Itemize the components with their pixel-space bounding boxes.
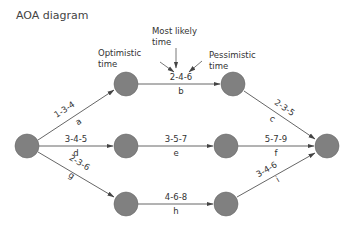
activity-g-name: g [67,170,77,181]
node-6 [214,192,238,216]
annotation-most-likely-line1: Most likely [152,26,197,36]
edge-a [38,90,114,140]
activity-d-times: 3-4-5 [65,134,87,144]
activity-e-times: 3-5-7 [165,134,187,144]
pointer-pessimistic [189,61,202,72]
node-3 [114,134,138,158]
node-start [15,134,39,158]
activity-f-name: f [275,148,279,158]
annotation-optimistic-line1: Optimistic [98,48,142,58]
activity-c-name: c [268,113,278,124]
node-1 [114,72,138,96]
activity-i-name: i [274,174,281,184]
activity-h-name: h [173,206,178,216]
annotation-pessimistic-line2: time [209,61,228,71]
node-4 [214,134,238,158]
annotation-most-likely-line2: time [152,37,171,47]
activity-b-name: b [178,86,183,96]
activity-h-times: 4-6-8 [165,192,187,202]
pointer-optimistic [160,62,174,72]
activity-b-times: 2-4-6 [170,72,192,82]
annotation-optimistic-line2: time [98,59,117,69]
aoa-network: Optimistic time Most likely time Pessimi… [0,0,350,231]
node-2 [221,72,245,96]
node-end [315,134,339,158]
node-5 [114,192,138,216]
activity-a-name: a [73,116,83,127]
activity-e-name: e [173,148,178,158]
activity-f-times: 5-7-9 [265,134,287,144]
annotation-pessimistic-line1: Pessimistic [209,50,256,60]
